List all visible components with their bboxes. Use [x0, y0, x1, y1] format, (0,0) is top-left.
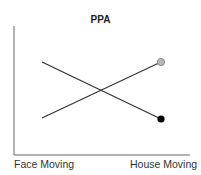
x-label-house-moving: House Moving [130, 158, 197, 170]
gray-marker [157, 58, 164, 65]
x-label-face-moving: Face Moving [14, 158, 74, 170]
chart-plot [0, 0, 201, 175]
black-marker [157, 115, 164, 122]
